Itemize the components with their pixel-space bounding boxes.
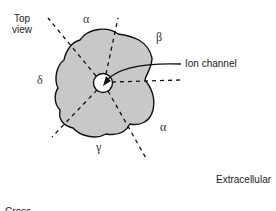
subunit-delta: δ xyxy=(37,74,43,86)
cross-section-label: Cross xyxy=(5,206,31,211)
ion-channel-pore xyxy=(94,74,113,93)
top-view-line2: view xyxy=(8,24,36,35)
subunit-beta: β xyxy=(156,31,162,43)
top-view-line1: Top xyxy=(8,13,36,24)
ion-channel-diagram: Top view α β δ α γ Ion channel Extracell… xyxy=(0,0,276,211)
ion-channel-label: Ion channel xyxy=(185,58,237,69)
subunit-alpha-bottom: α xyxy=(160,121,166,133)
subunit-alpha-top: α xyxy=(83,13,89,25)
subunit-gamma: γ xyxy=(96,141,101,153)
top-view-label: Top view xyxy=(8,13,36,35)
extracellular-label: Extracellular xyxy=(216,174,271,185)
